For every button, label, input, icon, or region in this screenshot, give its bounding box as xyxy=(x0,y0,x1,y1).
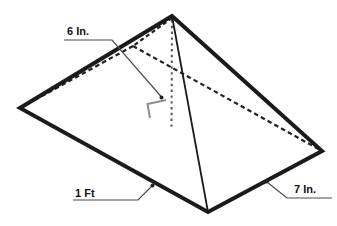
height-label: 6 In. xyxy=(67,25,89,37)
base-length-leader-dot xyxy=(151,184,155,188)
height-leader-line xyxy=(64,40,162,97)
base-width-label: 7 In. xyxy=(294,183,316,195)
hidden-edge-apex-back xyxy=(133,18,172,46)
base-width-leader-dot xyxy=(265,180,269,184)
base-length-label: 1 Ft xyxy=(75,187,95,199)
height-leader-dot xyxy=(160,96,164,100)
altitude-line xyxy=(172,20,173,130)
right-angle-mark xyxy=(148,100,167,118)
pyramid-figure: 6 In. 1 Ft 7 In. xyxy=(0,0,337,226)
pyramid-diagram: 6 In. 1 Ft 7 In. xyxy=(0,0,337,226)
